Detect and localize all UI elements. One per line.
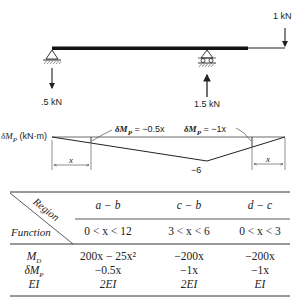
cell-dmp-2: −1x: [180, 264, 198, 276]
region-header-2: c − b: [177, 199, 201, 211]
annotation-left: δMP = −0.5x: [115, 124, 164, 137]
row-label-md: MD: [27, 250, 42, 265]
range-3: 0 < x < 3: [239, 225, 281, 237]
roller-support-icon: [198, 50, 216, 67]
cell-ei-1: 2EI: [100, 278, 117, 290]
row-label-ei: EI: [29, 278, 40, 290]
reaction-right-label: 1.5 kN: [194, 99, 220, 109]
cell-ei-2: 2EI: [181, 278, 198, 290]
range-2: 3 < x < 6: [168, 225, 210, 237]
dimension-right-label: x: [266, 154, 270, 164]
region-header-3: d − c: [248, 199, 272, 211]
pin-support-icon: [43, 50, 61, 64]
beam: [52, 47, 285, 51]
range-1: 0 < x < 12: [84, 225, 131, 237]
row-label-dmp: δMP: [24, 264, 43, 279]
region-header-1: a − b: [95, 199, 120, 211]
min-moment-label: −6: [191, 165, 201, 175]
cell-md-2: −200x: [174, 250, 204, 262]
annotation-right: δMP = −1x: [184, 124, 226, 137]
load-label: 1 kN: [273, 11, 292, 21]
cell-ei-3: EI: [255, 278, 266, 290]
moment-diagram: [52, 128, 285, 170]
cell-md-3: −200x: [245, 250, 275, 262]
dimension-left-label: x: [69, 155, 73, 165]
moment-axis-label: δMP (kN·m): [1, 131, 47, 144]
cell-dmp-3: −1x: [251, 264, 269, 276]
corner-function-label: Function: [11, 226, 51, 238]
cell-md-1: 200x − 25x²: [80, 250, 136, 262]
reaction-left-label: .5 kN: [41, 97, 62, 107]
cell-dmp-1: −0.5x: [95, 264, 122, 276]
